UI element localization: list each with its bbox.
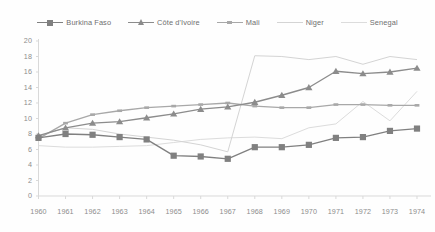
data-point-marker [117,134,123,140]
series-burkina-faso [35,125,420,161]
data-point-marker [252,144,258,150]
y-axis-tick-label: 10 [10,114,32,123]
data-point-marker [171,105,176,108]
x-axis-tick-label: 1972 [348,207,378,216]
y-axis-tick-label: 12 [10,98,32,107]
legend-label: Niger [306,18,324,27]
legend-label: Burkina Faso [66,18,111,27]
data-point-marker [279,106,284,109]
data-point-marker [144,106,149,109]
data-point-marker [35,135,41,141]
x-axis-tick-label: 1968 [240,207,270,216]
y-axis-tick-label: 20 [10,36,32,45]
y-axis-tick-label: 14 [10,83,32,92]
legend-swatch-icon [217,18,243,27]
legend-item-senegal[interactable]: Senegal [341,18,398,27]
chart-legend: Burkina FasoCôte d'IvoireMaliNigerSenega… [0,13,435,31]
data-point-marker [333,103,338,106]
data-point-marker [198,153,204,159]
legend-label: Côte d'Ivoire [157,18,200,27]
x-axis-tick-label: 1973 [375,207,405,216]
data-point-marker [305,84,312,90]
data-point-marker [90,113,95,116]
data-point-marker [117,109,122,112]
line-chart: Burkina FasoCôte d'IvoireMaliNigerSenega… [0,0,435,232]
y-axis-tick-label: 6 [10,145,32,154]
y-axis-tick-label: 2 [10,176,32,185]
data-point-marker [360,134,366,140]
x-axis-tick-label: 1970 [294,207,324,216]
legend-label: Mali [246,18,260,27]
data-point-marker [415,104,420,107]
data-point-marker [388,104,393,107]
data-point-marker [252,105,257,108]
legend-swatch-icon [128,18,154,27]
x-axis-tick-label: 1964 [132,207,162,216]
x-axis-tick-label: 1966 [186,207,216,216]
data-point-marker [413,65,420,71]
data-point-marker [361,103,366,106]
data-point-marker [63,122,68,125]
x-axis-tick-label: 1967 [213,207,243,216]
data-point-marker [89,132,95,138]
legend-swatch-icon [37,18,63,27]
legend-item-niger[interactable]: Niger [277,18,324,27]
x-axis-tick-label: 1971 [321,207,351,216]
data-point-marker [279,144,285,150]
data-point-marker [414,125,420,131]
data-point-marker [306,142,312,148]
x-axis-tick-label: 1974 [402,207,432,216]
legend-item-burkina-faso[interactable]: Burkina Faso [37,18,111,27]
data-point-marker [198,103,203,106]
data-point-marker [225,156,231,162]
data-point-marker [171,153,177,159]
data-point-marker [333,135,339,141]
plot-svg [0,33,435,232]
x-axis-tick-label: 1960 [24,207,54,216]
data-point-marker [144,136,150,142]
legend-item-c-te-d-ivoire[interactable]: Côte d'Ivoire [128,18,200,27]
legend-swatch-icon [341,18,367,27]
y-axis-tick-label: 8 [10,129,32,138]
x-axis-tick-label: 1965 [159,207,189,216]
y-axis-tick-label: 18 [10,52,32,61]
y-axis-tick-label: 16 [10,67,32,76]
plot-area: 2018161412108642019601961196219631964196… [0,33,435,232]
legend-item-mali[interactable]: Mali [217,18,260,27]
x-axis-tick-label: 1961 [51,207,81,216]
y-axis-tick-label: 0 [10,191,32,200]
y-axis-tick-label: 4 [10,160,32,169]
x-axis-tick-label: 1969 [267,207,297,216]
x-axis-tick-label: 1963 [105,207,135,216]
data-point-marker [306,106,311,109]
x-axis-tick-label: 1962 [78,207,108,216]
legend-swatch-icon [277,18,303,27]
legend-label: Senegal [370,18,398,27]
data-point-marker [387,128,393,134]
data-point-marker [62,131,68,137]
